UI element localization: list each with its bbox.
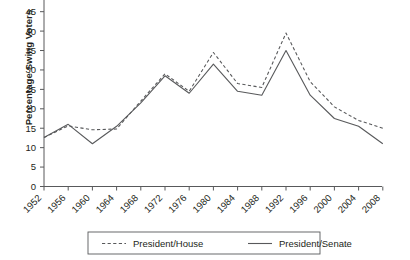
line-chart: 051015202530354045 195219561960196419681… [0,0,410,260]
x-tick-label: 1956 [45,192,68,215]
x-axis-ticks: 1952195619601964196819721976198019841988… [21,187,383,215]
series-line-president-house [44,33,383,138]
series-line-president-senate [44,51,383,144]
legend-label: President/Senate [279,238,352,249]
x-tick-label: 1992 [263,192,286,215]
y-axis-label: Percentage Swing Voters [23,0,34,153]
x-tick-label: 1996 [287,192,310,215]
x-tick-label: 1976 [166,192,189,215]
x-tick-label: 1988 [238,192,261,215]
x-tick-label: 2004 [335,192,358,215]
y-tick-label: 0 [31,181,36,192]
chart-container: Percentage Swing Voters 0510152025303540… [0,0,410,260]
x-tick-label: 1952 [21,192,44,215]
x-tick-label: 1972 [142,192,165,215]
x-tick-label: 1980 [190,192,213,215]
legend-label: President/House [133,238,203,249]
x-tick-label: 2008 [359,192,382,215]
series-group [44,33,383,144]
x-tick-label: 2000 [311,192,334,215]
x-tick-label: 1964 [93,192,116,215]
x-tick-label: 1968 [117,192,140,215]
x-tick-label: 1984 [214,192,237,215]
y-tick-label: 5 [31,161,36,172]
chart-legend: President/HousePresident/Senate [88,232,352,254]
x-tick-label: 1960 [69,192,92,215]
